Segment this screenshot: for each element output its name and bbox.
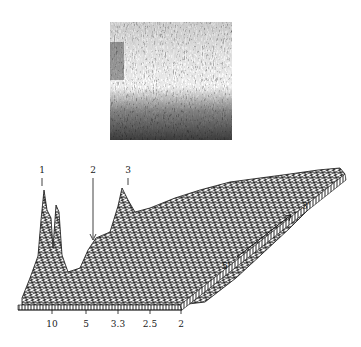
x-tick-label: 2: [178, 319, 184, 329]
x-axis-ticks: [52, 310, 181, 314]
depth-start-label: 5': [222, 262, 230, 271]
peak-label-1: 1: [38, 166, 46, 175]
gel-texture: [110, 22, 232, 140]
depth-end-label: 3': [302, 202, 310, 211]
x-tick-label: 2.5: [143, 319, 157, 329]
x-tick-label: 10: [46, 319, 57, 329]
peak-label-3: 3: [124, 166, 132, 175]
x-tick-label: 5: [83, 319, 89, 329]
peak-label-2: 2: [89, 166, 97, 175]
x-tick-label: 3.3: [111, 319, 125, 329]
wireframe-surface-plot: 1 2 3 10 5 3.3 2.5 2 5' 3': [0, 160, 361, 347]
grayscale-matrix-image: [110, 22, 232, 140]
